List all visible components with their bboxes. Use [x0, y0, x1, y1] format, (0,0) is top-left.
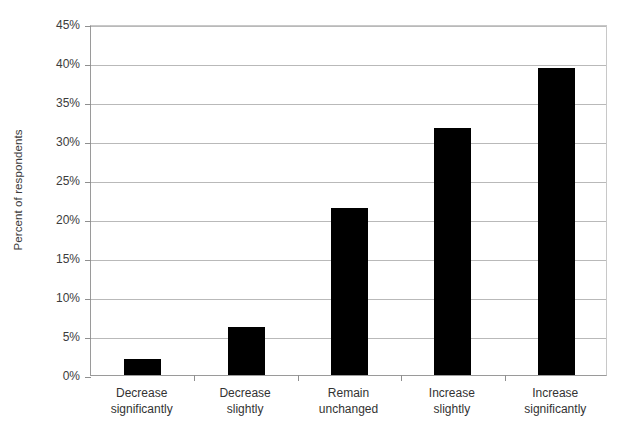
y-tick-label: 20% — [56, 213, 80, 227]
x-category-label-line: significantly — [504, 402, 607, 418]
y-axis-title: Percent of respondents — [0, 0, 36, 380]
x-category-label-line: slightly — [193, 402, 296, 418]
x-category-label: Remainunchanged — [297, 386, 400, 417]
y-axis-tick-labels: 0%5%10%15%20%25%30%35%40%45% — [38, 25, 86, 376]
y-tick-label: 25% — [56, 174, 80, 188]
x-category-label: Increaseslightly — [400, 386, 503, 417]
x-tick-mark — [505, 375, 506, 381]
y-axis-title-text: Percent of respondents — [12, 129, 24, 250]
x-tick-mark — [194, 375, 195, 381]
y-tick-label: 10% — [56, 291, 80, 305]
bar — [331, 208, 368, 375]
plot-area — [90, 25, 607, 376]
bar — [228, 327, 265, 375]
x-tick-mark — [298, 375, 299, 381]
x-tick-mark — [401, 375, 402, 381]
y-tick-label: 45% — [56, 18, 80, 32]
y-tick-label: 35% — [56, 96, 80, 110]
y-tick-label: 30% — [56, 135, 80, 149]
x-category-label-line: significantly — [90, 402, 193, 418]
y-tick-mark — [85, 377, 91, 378]
x-category-label: Decreasesignificantly — [90, 386, 193, 417]
x-category-label-line: Decrease — [116, 386, 167, 400]
x-axis-category-labels: DecreasesignificantlyDecreaseslightlyRem… — [90, 386, 607, 432]
x-category-label-line: slightly — [400, 402, 503, 418]
x-category-label-line: Increase — [532, 386, 578, 400]
bar — [124, 359, 161, 375]
bar — [434, 128, 471, 375]
bar — [538, 68, 575, 375]
gridline-0pct — [91, 377, 606, 378]
bars — [91, 26, 606, 375]
y-tick-label: 0% — [63, 369, 80, 383]
y-tick-label: 15% — [56, 252, 80, 266]
x-category-label-line: Increase — [429, 386, 475, 400]
x-category-label-line: Remain — [328, 386, 369, 400]
y-tick-label: 5% — [63, 330, 80, 344]
bar-chart: Percent of respondents 0%5%10%15%20%25%3… — [0, 0, 631, 442]
y-tick-label: 40% — [56, 57, 80, 71]
x-category-label-line: Decrease — [219, 386, 270, 400]
x-category-label-line: unchanged — [297, 402, 400, 418]
x-category-label: Increasesignificantly — [504, 386, 607, 417]
x-category-label: Decreaseslightly — [193, 386, 296, 417]
